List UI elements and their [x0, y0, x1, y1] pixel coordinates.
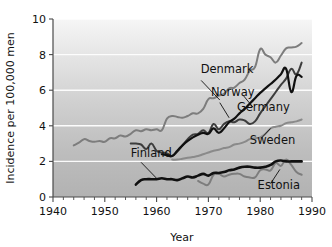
series-label-germany: Germany [237, 100, 290, 114]
x-tick-label-1950: 1950 [91, 205, 119, 218]
series-label-finland: Finland [131, 146, 172, 160]
x-tick-label-1960: 1960 [143, 205, 171, 218]
y-tick-label-2: 2 [39, 155, 46, 168]
incidence-line-chart: 194019501960197019801990 0246810 Denmark… [0, 0, 332, 247]
series-label-denmark: Denmark [201, 62, 254, 76]
y-tick-label-0: 0 [39, 191, 46, 204]
x-tick-label-1990: 1990 [298, 205, 326, 218]
y-axis-title: Incidence per 100,000 men [4, 32, 17, 184]
series-label-norway: Norway [211, 85, 255, 99]
y-tick-label-8: 8 [39, 49, 46, 62]
y-tick-label-4: 4 [39, 120, 46, 133]
x-axis-title: Year [169, 231, 194, 244]
y-tick-label-10: 10 [32, 13, 46, 26]
series-label-estonia: Estonia [258, 178, 300, 192]
x-tick-label-1970: 1970 [194, 205, 222, 218]
chart-canvas: 194019501960197019801990 0246810 Denmark… [0, 0, 332, 247]
x-tick-label-1940: 1940 [39, 205, 67, 218]
series-label-sweden: Sweden [250, 133, 295, 147]
x-tick-label-1980: 1980 [246, 205, 274, 218]
y-tick-label-6: 6 [39, 84, 46, 97]
